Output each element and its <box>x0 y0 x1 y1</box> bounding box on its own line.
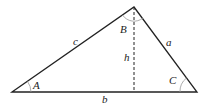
side-a-label: a <box>166 36 172 48</box>
height-label: h <box>124 51 130 63</box>
angle-C-label: C <box>169 74 177 86</box>
angle-C-arc <box>180 78 187 92</box>
side-c-label: c <box>73 35 78 47</box>
triangle-svg: c a b A B C h <box>0 0 204 107</box>
side-b-label: b <box>102 93 108 105</box>
angle-B-label: B <box>120 23 127 35</box>
angle-A-label: A <box>32 79 40 91</box>
angle-A-arc <box>28 82 31 93</box>
triangle-diagram: c a b A B C h <box>0 0 204 107</box>
